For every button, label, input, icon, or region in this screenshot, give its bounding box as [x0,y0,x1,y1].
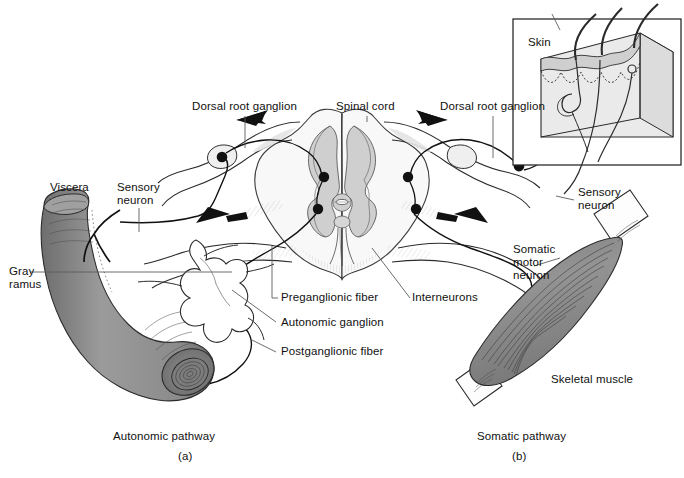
figure-canvas: Dorsal root ganglion Spinal cord Dorsal … [0,0,684,478]
label-dorsal-root-ganglion-left: Dorsal root ganglion [192,100,297,113]
label-interneurons: Interneurons [412,291,478,304]
skin-block-side [640,33,673,137]
label-skin: Skin [528,36,551,49]
arrow-efferent-left-tail [226,212,248,222]
synapse-right-upper [403,172,413,182]
label-autonomic-ganglion: Autonomic ganglion [281,316,384,329]
caption-somatic-pathway: Somatic pathway [477,430,566,443]
panel-id-b: (b) [512,450,526,463]
label-viscera: Viscera [50,181,89,194]
synapse-right-lower [411,204,421,214]
anatomical-diagram [0,0,684,478]
anterior-commissure [334,216,350,228]
label-preganglionic-fiber: Preganglionic fiber [281,291,378,304]
label-skeletal-muscle: Skeletal muscle [551,373,633,386]
star-shaped-ganglion [180,240,253,342]
caption-autonomic-pathway: Autonomic pathway [113,430,215,443]
label-somatic-motor-neuron: Somatic motor neuron [513,243,555,282]
synapse-left-upper [319,172,329,182]
arrow-efferent-right-head [454,207,488,223]
label-spinal-cord: Spinal cord [336,100,395,113]
label-sensory-neuron-right: Sensory neuron [578,186,621,212]
leader-sensory-right [556,196,574,200]
label-dorsal-root-ganglion-right: Dorsal root ganglion [440,100,545,113]
synapse-left-lower [313,204,323,214]
arrow-efferent-right-tail [436,212,458,222]
ganglion-ramus-right [246,264,274,272]
skin-block-diagram [513,4,681,194]
dorsal-root-ganglion-right [447,145,476,169]
label-sensory-neuron-left: Sensory neuron [117,181,160,207]
dorsal-root-ganglion-cell-body-left [217,152,228,163]
leader-postganglionic [252,340,276,352]
label-gray-ramus: Gray ramus [9,265,41,291]
label-postganglionic-fiber: Postganglionic fiber [281,345,383,358]
panel-id-a: (a) [178,450,192,463]
